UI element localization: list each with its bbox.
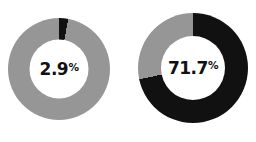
donut-hole-right: 71.7% (161, 36, 225, 100)
donut-center-label-left: 2.9% (40, 61, 79, 78)
chart-canvas: 2.9% 71.7% (0, 0, 256, 142)
percent-sign-right: % (208, 60, 218, 71)
donut-chart-right: 71.7% (138, 13, 248, 123)
donut-center-label-right: 71.7% (168, 60, 218, 77)
donut-value-left: 2.9 (40, 61, 69, 78)
percent-sign-left: % (68, 61, 78, 72)
donut-value-right: 71.7 (168, 60, 208, 77)
donut-hole-left: 2.9% (30, 40, 89, 99)
donut-chart-left: 2.9% (8, 18, 110, 120)
